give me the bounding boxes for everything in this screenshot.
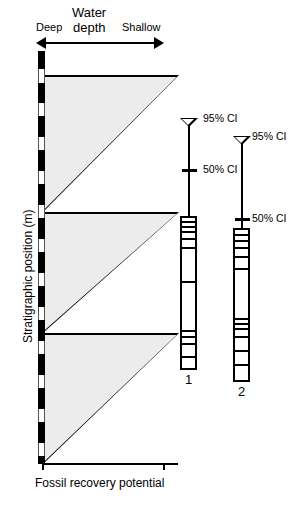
water-depth-label-line1: Water (72, 6, 106, 20)
strat-segment-21 (38, 388, 45, 409)
bed-boundary-1-2 (182, 226, 195, 228)
strat-segment-20 (38, 375, 45, 388)
strat-segment-15 (38, 286, 45, 307)
bed-boundary-1-9 (182, 343, 195, 345)
bed-boundary-1-6 (182, 281, 195, 283)
bed-boundary-2-9 (235, 336, 248, 338)
x-axis-tick-right (163, 463, 165, 470)
ci50-tick-section-2 (235, 218, 250, 221)
section-column-2[interactable] (233, 228, 250, 382)
ci-stem-section-2 (241, 140, 243, 228)
water-depth-arrow-line (44, 42, 160, 44)
sawtooth-outline-3 (44, 333, 179, 463)
ci95-triangle-icon-section-1 (180, 118, 198, 127)
section-column-1[interactable] (180, 216, 197, 370)
ci95-label-section-2: 95% CI (252, 131, 286, 142)
bed-boundary-1-5 (182, 247, 195, 249)
strat-segment-3 (38, 83, 45, 103)
bed-boundary-1-7 (182, 330, 195, 332)
x-axis-label: Fossil recovery potential (35, 477, 164, 490)
sawtooth-triangle-2 (44, 212, 179, 332)
strat-segment-18 (38, 341, 45, 354)
strat-segment-16 (38, 307, 45, 320)
strat-segment-24 (38, 443, 45, 456)
x-axis-line (42, 463, 178, 465)
sawtooth-outline-2 (44, 212, 179, 332)
bed-boundary-2-10 (235, 350, 248, 352)
sawtooth-triangle-1 (44, 75, 179, 211)
bed-boundary-1-3 (182, 231, 195, 233)
bed-boundary-2-6 (235, 318, 248, 320)
ci95-triangle-inner-section-2 (235, 137, 247, 143)
ci95-label-section-1: 95% CI (203, 113, 237, 124)
strat-segment-17 (38, 320, 45, 341)
bed-boundary-2-2 (235, 240, 248, 242)
bed-boundary-2-11 (235, 364, 248, 366)
section-label-2: 2 (238, 385, 245, 399)
ci95-triangle-inner-section-1 (182, 119, 194, 125)
ci50-label-section-1: 50% CI (203, 164, 237, 175)
strat-segment-8 (38, 171, 45, 184)
ci50-tick-section-1 (182, 169, 197, 172)
strat-segment-6 (38, 137, 45, 150)
section-label-1: 1 (185, 373, 192, 387)
strat-segment-4 (38, 103, 45, 116)
strat-segment-12 (38, 239, 45, 252)
arrow-head-right-icon (154, 37, 164, 49)
strat-segment-10 (38, 205, 45, 218)
strat-segment-1 (38, 51, 45, 69)
strat-segment-13 (38, 252, 45, 273)
strat-segment-14 (38, 273, 45, 286)
shallow-label: Shallow (122, 22, 161, 34)
y-axis-label: Stratigraphic position (m) (22, 186, 35, 366)
strat-segment-11 (38, 218, 45, 239)
strat-segment-2 (38, 69, 45, 83)
x-axis-tick-left (42, 463, 44, 470)
bed-boundary-1-4 (182, 238, 195, 240)
bed-boundary-1-10 (182, 356, 195, 358)
stratigraphic-figure: Water depth Deep Shallow Fossil recovery… (0, 0, 306, 506)
water-depth-label-line2: depth (73, 21, 106, 35)
sawtooth-triangle-3 (44, 333, 179, 463)
ci50-label-section-2: 50% CI (252, 213, 286, 224)
strat-segment-5 (38, 116, 45, 137)
bed-boundary-2-7 (235, 323, 248, 325)
sawtooth-outline-1 (44, 75, 179, 211)
strat-segment-7 (38, 150, 45, 171)
bed-boundary-2-3 (235, 247, 248, 249)
strat-segment-19 (38, 354, 45, 375)
bed-boundary-1-1 (182, 221, 195, 223)
arrow-head-left-icon (36, 37, 46, 49)
strat-segment-22 (38, 409, 45, 422)
bed-boundary-2-4 (235, 256, 248, 258)
bed-boundary-1-8 (182, 336, 195, 338)
strat-segment-9 (38, 184, 45, 205)
bed-boundary-2-1 (235, 234, 248, 236)
stratigraphic-column (38, 51, 45, 464)
deep-label: Deep (36, 22, 62, 34)
bed-boundary-2-8 (235, 328, 248, 330)
strat-segment-23 (38, 422, 45, 443)
bed-boundary-2-5 (235, 268, 248, 270)
ci95-triangle-icon-section-2 (233, 136, 251, 145)
